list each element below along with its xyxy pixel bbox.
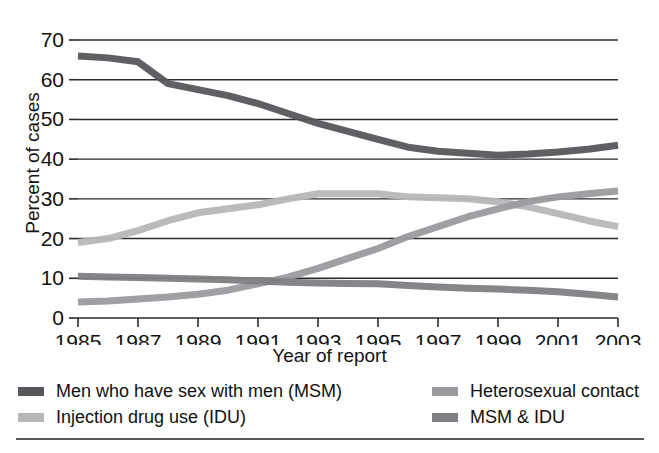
legend-swatch-icon bbox=[18, 413, 44, 422]
legend-column-right: Heterosexual contactMSM & IDU bbox=[432, 378, 639, 430]
footer-divider bbox=[16, 438, 644, 440]
legend-label: Injection drug use (IDU) bbox=[56, 408, 246, 426]
legend-entry[interactable]: Heterosexual contact bbox=[432, 378, 639, 404]
x-tick-label-1989: 1989 bbox=[175, 330, 222, 345]
chart-plot-area: 0102030405060701985198719891991199319951… bbox=[0, 0, 659, 345]
y-tick-label-50: 50 bbox=[41, 107, 64, 130]
legend-label: Men who have sex with men (MSM) bbox=[56, 382, 342, 400]
legend-label: MSM & IDU bbox=[470, 408, 565, 426]
chart-legend: Men who have sex with men (MSM)Injection… bbox=[0, 378, 659, 434]
x-tick-label-2003: 2003 bbox=[595, 330, 642, 345]
x-tick-label-1995: 1995 bbox=[355, 330, 402, 345]
x-tick-label-1985: 1985 bbox=[55, 330, 102, 345]
x-tick-label-1987: 1987 bbox=[115, 330, 162, 345]
y-tick-label-20: 20 bbox=[41, 227, 64, 250]
legend-entry[interactable]: MSM & IDU bbox=[432, 404, 639, 430]
x-axis-label: Year of report bbox=[0, 345, 659, 367]
y-tick-label-10: 10 bbox=[41, 266, 64, 289]
figure: 0102030405060701985198719891991199319951… bbox=[0, 0, 659, 453]
legend-label: Heterosexual contact bbox=[470, 382, 639, 400]
legend-entry[interactable]: Men who have sex with men (MSM) bbox=[18, 378, 342, 404]
y-tick-label-0: 0 bbox=[52, 306, 64, 329]
x-tick-label-1997: 1997 bbox=[415, 330, 462, 345]
y-tick-label-60: 60 bbox=[41, 68, 64, 91]
legend-entry[interactable]: Injection drug use (IDU) bbox=[18, 404, 342, 430]
y-tick-label-70: 70 bbox=[41, 28, 64, 51]
legend-swatch-icon bbox=[18, 387, 44, 396]
legend-swatch-icon bbox=[432, 413, 458, 422]
series-line-3 bbox=[78, 276, 618, 297]
legend-swatch-icon bbox=[432, 387, 458, 396]
y-tick-label-30: 30 bbox=[41, 187, 64, 210]
legend-column-left: Men who have sex with men (MSM)Injection… bbox=[18, 378, 342, 430]
x-tick-label-1999: 1999 bbox=[475, 330, 522, 345]
x-tick-label-2001: 2001 bbox=[535, 330, 582, 345]
line-chart: 0102030405060701985198719891991199319951… bbox=[0, 0, 659, 345]
y-axis-label: Percent of cases bbox=[22, 38, 44, 288]
x-tick-label-1993: 1993 bbox=[295, 330, 342, 345]
series-line-0 bbox=[78, 56, 618, 155]
y-tick-label-40: 40 bbox=[41, 147, 64, 170]
x-tick-label-1991: 1991 bbox=[235, 330, 282, 345]
